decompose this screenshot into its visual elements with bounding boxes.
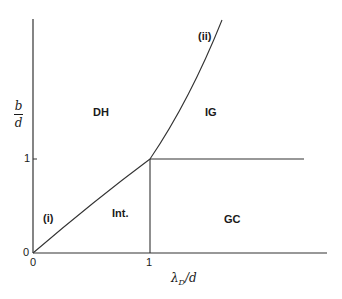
y-axis-label-numerator: b xyxy=(15,99,23,113)
curve-label-ii: (ii) xyxy=(198,30,211,42)
y-tick-label-0: 0 xyxy=(23,246,29,258)
x-tick-label-0: 0 xyxy=(30,256,36,268)
x-axis-label-lambda: λ xyxy=(171,271,179,285)
phase-diagram: DH IG Int. GC (i) (ii) 0 1 0 1 b d λD/d xyxy=(0,0,342,299)
y-axis-label-denominator: d xyxy=(15,116,23,130)
boundary-i xyxy=(33,159,150,253)
fraction-bar xyxy=(14,114,23,115)
x-tick-label-1: 1 xyxy=(146,256,152,268)
region-label-dh: DH xyxy=(93,106,109,118)
x-axis-label: λD/d xyxy=(171,271,197,287)
region-label-ig: IG xyxy=(205,106,217,118)
curve-label-i: (i) xyxy=(43,212,53,224)
y-tick-label-1: 1 xyxy=(24,152,30,164)
diagram-canvas xyxy=(0,0,342,299)
y-axis-label: b d xyxy=(14,99,23,130)
x-axis-label-tail: /d xyxy=(185,271,197,285)
region-label-int: Int. xyxy=(112,207,129,219)
region-label-gc: GC xyxy=(224,213,241,225)
